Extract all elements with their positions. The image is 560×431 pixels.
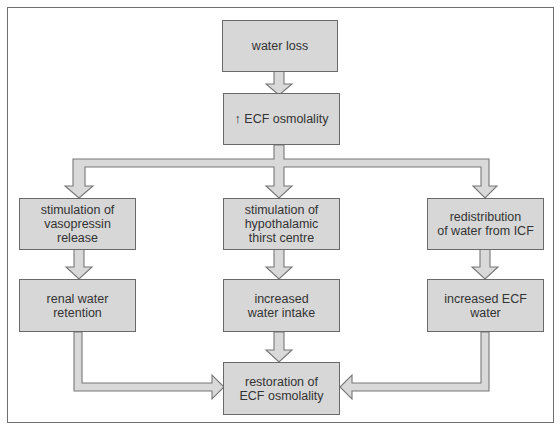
node-water-intake: increased water intake xyxy=(223,279,340,332)
arrow-vasopressin-to-renal xyxy=(66,249,92,279)
node-ecf-water: increased ECF water xyxy=(427,279,544,332)
arrow-ecf-water-to-restoration xyxy=(340,332,489,399)
arrow-renal-to-restoration xyxy=(74,332,224,399)
node-renal-retention: renal water retention xyxy=(19,279,136,332)
arrow-branch-split xyxy=(65,145,497,198)
node-water-loss: water loss xyxy=(222,20,338,72)
arrow-intake-to-restoration xyxy=(266,332,292,362)
node-ecf-osmolality-increase: ↑ ECF osmolality xyxy=(223,93,340,145)
arrow-redistribution-to-ecf-water xyxy=(472,249,498,279)
node-restoration: restoration of ECF osmolality xyxy=(223,362,340,415)
arrow-thirst-to-intake xyxy=(266,249,292,279)
node-thirst-centre: stimulation of hypothalamic thirst centr… xyxy=(223,198,340,250)
node-vasopressin-release: stimulation of vasopressin release xyxy=(19,198,136,250)
arrow-water-loss-to-ecf xyxy=(266,71,292,95)
node-redistribution: redistribution of water from ICF xyxy=(427,198,544,250)
